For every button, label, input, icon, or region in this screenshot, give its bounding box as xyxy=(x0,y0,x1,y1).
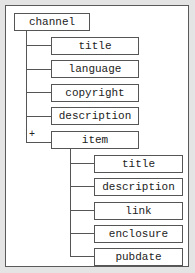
connector-item-description xyxy=(70,186,94,187)
channel-connector-vertical xyxy=(26,30,27,143)
node-label: item xyxy=(82,134,108,146)
node-label: title xyxy=(78,40,111,52)
node-label: copyright xyxy=(65,87,124,99)
node-label: pubdate xyxy=(115,251,161,263)
multiplicity-plus-marker: + xyxy=(29,130,35,140)
node-copyright: copyright xyxy=(51,84,139,102)
node-description: description xyxy=(51,107,139,125)
connector-description xyxy=(26,116,51,117)
node-label: enclosure xyxy=(109,228,168,240)
node-label: language xyxy=(69,63,122,75)
connector-copyright xyxy=(26,92,51,93)
connector-item-enclosure xyxy=(70,233,94,234)
node-channel: channel xyxy=(14,13,90,31)
connector-language xyxy=(26,69,51,70)
node-title: title xyxy=(51,37,139,55)
connector-item xyxy=(26,142,51,143)
connector-item-title xyxy=(70,163,94,164)
connector-title xyxy=(26,45,51,46)
item-connector-vertical xyxy=(70,149,71,256)
node-item-description: description xyxy=(94,178,183,196)
node-item-enclosure: enclosure xyxy=(94,225,183,243)
node-item-pubdate: pubdate xyxy=(94,248,183,266)
node-language: language xyxy=(51,60,139,78)
connector-item-link xyxy=(70,210,94,211)
connector-item-pubdate xyxy=(70,256,94,257)
node-label: link xyxy=(125,205,151,217)
node-label: description xyxy=(102,181,175,193)
node-label: channel xyxy=(29,16,75,28)
node-label: title xyxy=(122,158,155,170)
node-label: description xyxy=(59,110,132,122)
node-item: item xyxy=(51,131,139,149)
node-item-title: title xyxy=(94,155,183,173)
node-item-link: link xyxy=(94,202,183,220)
